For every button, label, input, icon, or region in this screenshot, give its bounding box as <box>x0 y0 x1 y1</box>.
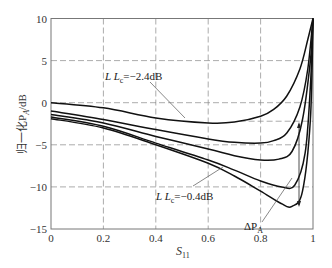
chart: 00.20.40.60.811050−5−10−15 L Lc=−2.4dB L… <box>0 0 332 268</box>
annotation-llc-2.4: L Lc=−2.4dB <box>104 70 162 85</box>
annotations: L Lc=−2.4dB L Lc=−0.4dB ΔPA <box>104 70 301 235</box>
leader-line-delta <box>262 178 292 222</box>
series-line-1 <box>51 19 313 124</box>
x-tick-label: 0.4 <box>149 232 163 244</box>
y-tick-label: 0 <box>42 97 48 109</box>
series-line-3 <box>51 19 313 161</box>
leader-line-top <box>150 82 185 118</box>
x-tick-label: 0.2 <box>97 232 111 244</box>
y-axis-label: 归一化PA/dB <box>13 94 31 154</box>
tick-labels: 00.20.40.60.811050−5−10−15 <box>30 13 316 245</box>
y-tick-label: 10 <box>36 13 48 25</box>
y-tick-label: −15 <box>30 223 48 235</box>
series-line-4 <box>51 19 313 189</box>
series-line-5 <box>51 19 313 208</box>
y-tick-label: 5 <box>42 55 48 67</box>
y-tick-label: −10 <box>30 181 48 193</box>
y-tick-label: −5 <box>35 139 47 151</box>
data-series <box>51 19 313 208</box>
x-tick-label: 0 <box>48 232 54 244</box>
x-axis-label: S11 <box>176 244 190 260</box>
x-tick-label: 1 <box>310 232 316 244</box>
x-tick-label: 0.6 <box>201 232 215 244</box>
arrow-head-up <box>297 122 301 128</box>
annotation-llc-0.4: L Lc=−0.4dB <box>155 190 213 205</box>
